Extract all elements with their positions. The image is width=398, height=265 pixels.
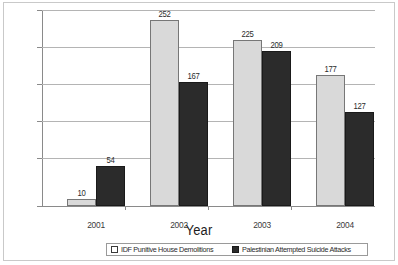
bar-idf-2002[interactable]	[150, 20, 179, 206]
gridline-250	[42, 10, 375, 11]
bar-value-attacks-2001: 54	[98, 155, 123, 165]
bar-value-idf-2002: 252	[152, 9, 177, 19]
bar-idf-2001[interactable]	[67, 199, 96, 206]
x-tick-sep-2	[208, 206, 209, 210]
bar-attacks-2001[interactable]	[96, 166, 125, 206]
chart-page: 250 200 150 100 50 0 10 54 252	[0, 0, 398, 265]
bar-idf-2003[interactable]	[233, 40, 262, 206]
y-tick-250	[37, 10, 42, 11]
x-tick-sep-1	[125, 206, 126, 210]
y-tick-200	[37, 47, 42, 48]
bar-value-attacks-2003: 209	[264, 40, 289, 50]
legend-label-idf: IDF Punitive House Demolitions	[121, 245, 213, 254]
plot-area: 10 54 252 167 225 209 177 127 2001 2002 …	[42, 10, 375, 206]
bar-attacks-2004[interactable]	[345, 112, 374, 206]
bar-value-idf-2001: 10	[69, 188, 94, 198]
y-tick-50	[37, 158, 42, 159]
gridline-200	[42, 47, 375, 48]
legend-item-attacks[interactable]: Palestinian Attempted Suicide Attacks	[232, 245, 363, 254]
y-tick-0	[37, 206, 42, 207]
bar-value-attacks-2002: 167	[181, 71, 206, 81]
bar-value-idf-2003: 225	[235, 29, 260, 39]
chart-legend: IDF Punitive House Demolitions Palestini…	[106, 243, 368, 256]
legend-item-idf[interactable]: IDF Punitive House Demolitions	[111, 245, 223, 254]
y-tick-150	[37, 84, 42, 85]
y-tick-100	[37, 121, 42, 122]
bar-idf-2004[interactable]	[316, 75, 345, 206]
bar-attacks-2002[interactable]	[179, 82, 208, 206]
legend-label-attacks: Palestinian Attempted Suicide Attacks	[242, 245, 351, 254]
bar-value-idf-2004: 177	[318, 64, 343, 74]
x-tick-sep-3	[291, 206, 292, 210]
legend-swatch-light-icon	[111, 246, 118, 253]
legend-swatch-dark-icon	[232, 246, 239, 253]
bar-attacks-2003[interactable]	[262, 51, 291, 206]
x-axis-title: Year	[16, 222, 382, 238]
bar-value-attacks-2004: 127	[347, 101, 372, 111]
y-axis-line	[42, 10, 43, 206]
